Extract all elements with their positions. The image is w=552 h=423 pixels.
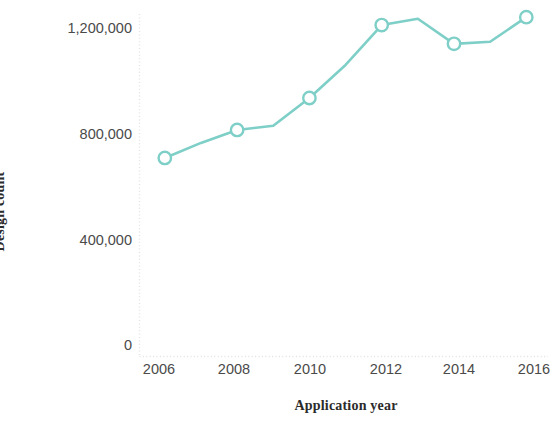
x-tick-label: 2010 bbox=[275, 361, 345, 377]
line-chart: Design count 1,200,000 800,000 400,000 0… bbox=[0, 0, 552, 423]
x-tick-label: 2016 bbox=[499, 361, 552, 377]
x-tick-label: 2008 bbox=[199, 361, 269, 377]
x-axis-title: Application year bbox=[140, 398, 552, 414]
x-tick-label: 2012 bbox=[351, 361, 421, 377]
x-tick-label: 2006 bbox=[124, 361, 194, 377]
x-axis-tick-labels: 2006 2008 2010 2012 2014 2016 bbox=[0, 0, 552, 423]
x-tick-label: 2014 bbox=[424, 361, 494, 377]
